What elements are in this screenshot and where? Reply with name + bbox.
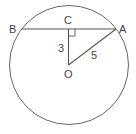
right-angle-marker — [69, 29, 76, 36]
circle-chord-diagram: B C A O 3 5 — [0, 0, 136, 134]
label-b: B — [9, 23, 16, 35]
label-c: C — [64, 14, 72, 26]
label-o: O — [64, 68, 73, 80]
length-oa: 5 — [91, 49, 97, 61]
label-a: A — [119, 23, 127, 35]
length-oc: 3 — [58, 42, 64, 54]
